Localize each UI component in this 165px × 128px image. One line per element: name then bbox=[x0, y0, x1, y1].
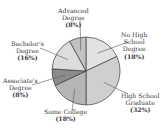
label-percent: (8%) bbox=[3, 91, 38, 98]
label-text: Advanced bbox=[58, 7, 89, 14]
label-text: No High bbox=[121, 31, 147, 38]
label-percent: (18%) bbox=[121, 53, 147, 60]
label-associates: Associate's Degree (8%) bbox=[3, 77, 38, 99]
label-percent: (16%) bbox=[11, 54, 44, 61]
label-percent: (18%) bbox=[44, 115, 87, 122]
label-text: Degree bbox=[9, 84, 32, 91]
label-text: Graduate bbox=[126, 99, 155, 106]
label-high-school-graduate: High School Graduate (32%) bbox=[121, 92, 159, 114]
label-text: Degree bbox=[62, 14, 85, 21]
label-no-high-school: No High School Degree (18%) bbox=[121, 31, 147, 60]
label-text: High School bbox=[121, 92, 159, 99]
label-bachelors: Bachelor's Degree (16%) bbox=[11, 40, 44, 62]
label-text: Degree bbox=[123, 45, 146, 52]
label-text: Associate's bbox=[3, 77, 38, 84]
label-text: Bachelor's bbox=[11, 40, 44, 47]
label-some-college: Some College (18%) bbox=[44, 108, 87, 122]
label-percent: (8%) bbox=[58, 21, 89, 28]
label-text: Some College bbox=[44, 108, 87, 115]
label-text: School bbox=[124, 38, 145, 45]
label-percent: (32%) bbox=[121, 106, 159, 113]
label-advanced: Advanced Degree (8%) bbox=[58, 7, 89, 29]
label-text: Degree bbox=[16, 47, 39, 54]
